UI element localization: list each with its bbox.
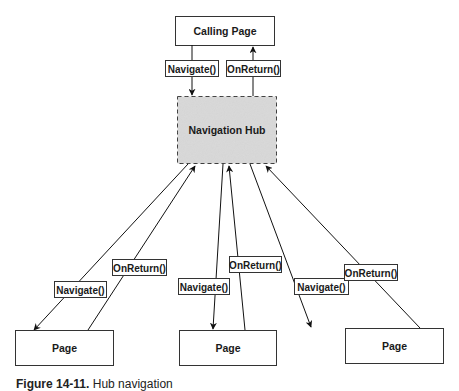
figure-number: Figure 14-11. bbox=[16, 377, 89, 391]
right-navigate-label-box: Navigate() bbox=[295, 279, 349, 295]
left-navigate-label-box: Navigate() bbox=[55, 282, 107, 298]
top-onreturn-label-box: OnReturn() bbox=[227, 61, 281, 77]
left-onreturn-label-box: OnReturn() bbox=[113, 260, 167, 276]
top-navigate-label: Navigate() bbox=[168, 64, 216, 75]
right-onreturn-label: OnReturn() bbox=[345, 268, 398, 279]
right-onreturn-arrow bbox=[266, 166, 420, 328]
middle-onreturn-label: OnReturn() bbox=[229, 260, 282, 271]
middle-page-label: Page bbox=[215, 342, 240, 354]
left-page-label: Page bbox=[52, 342, 77, 354]
right-page-box: Page bbox=[346, 329, 444, 364]
left-onreturn-arrow bbox=[88, 166, 195, 330]
right-navigate-arrow bbox=[250, 164, 311, 327]
right-onreturn-label-box: OnReturn() bbox=[345, 265, 398, 281]
right-navigate-label: Navigate() bbox=[297, 282, 345, 293]
left-navigate-label: Navigate() bbox=[56, 285, 104, 296]
middle-page-box: Page bbox=[180, 331, 277, 366]
left-page-box: Page bbox=[16, 331, 114, 366]
right-page-label: Page bbox=[382, 340, 407, 352]
middle-navigate-arrow bbox=[213, 164, 223, 329]
calling-page-label: Calling Page bbox=[193, 25, 256, 37]
navigation-hub-label: Navigation Hub bbox=[188, 124, 265, 136]
figure-caption: Figure 14-11. Hub navigation bbox=[16, 377, 173, 391]
left-onreturn-label: OnReturn() bbox=[113, 263, 166, 274]
middle-onreturn-label-box: OnReturn() bbox=[229, 257, 282, 273]
calling-page-box: Calling Page bbox=[176, 17, 275, 46]
figure-caption-text: Hub navigation bbox=[93, 377, 173, 391]
top-navigate-label-box: Navigate() bbox=[166, 61, 219, 77]
middle-navigate-label: Navigate() bbox=[180, 282, 228, 293]
middle-navigate-label-box: Navigate() bbox=[179, 279, 230, 295]
left-navigate-arrow bbox=[34, 164, 188, 330]
navigation-hub-box: Navigation Hub bbox=[178, 97, 277, 164]
middle-onreturn-arrow bbox=[229, 166, 245, 330]
top-onreturn-label: OnReturn() bbox=[227, 64, 280, 75]
